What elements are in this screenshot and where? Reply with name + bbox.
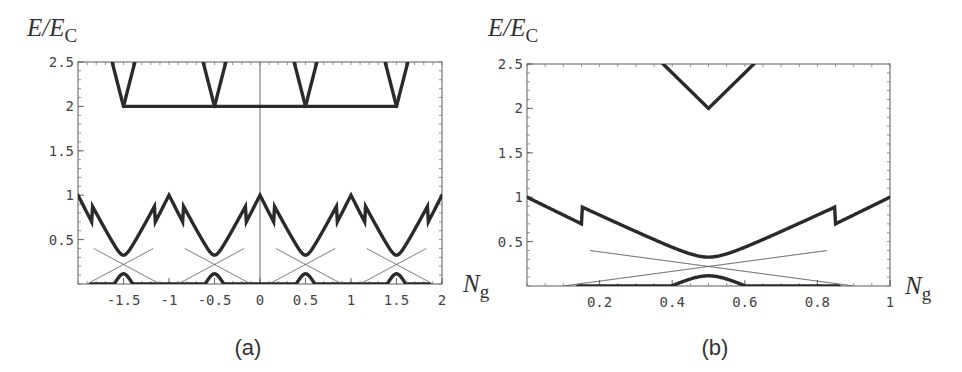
energy-level-curve <box>527 0 709 108</box>
y-tick-label: 2.5 <box>498 56 523 72</box>
panel-b-xlabel: Ng <box>904 272 932 304</box>
energy-level-curve <box>78 0 397 106</box>
x-tick-label: 0 <box>256 292 264 308</box>
energy-level-curve <box>215 0 443 106</box>
panel-b-plot-frame <box>527 64 890 286</box>
x-tick-label: 0.5 <box>293 292 318 308</box>
y-tick-label: 0.5 <box>49 232 74 248</box>
x-tick-label: 1 <box>347 292 355 308</box>
y-tick-label: 1.5 <box>498 145 523 161</box>
panel-a: E/EC -1.5-1-0.500.511.520.511.522.5 Ng (… <box>26 0 490 360</box>
x-tick-label: 2 <box>438 292 446 308</box>
panel-a-ylabel: E/EC <box>26 14 77 46</box>
first-excited-curve <box>527 197 890 257</box>
x-tick-label: 1.5 <box>384 292 409 308</box>
x-tick-label: -1 <box>161 292 178 308</box>
y-tick-label: 1 <box>66 187 74 203</box>
y-tick-label: 2 <box>515 100 523 116</box>
x-tick-label: 1 <box>886 294 894 310</box>
panel-b-curves <box>527 0 890 286</box>
x-tick-label: 0.4 <box>660 294 685 310</box>
panel-a-xlabel: Ng <box>462 270 490 302</box>
figure-svg: E/EC -1.5-1-0.500.511.520.511.522.5 Ng (… <box>0 0 962 372</box>
panel-b: E/EC 0.20.40.60.810.511.522.5 Ng (b) <box>487 0 932 360</box>
x-tick-label: 0.8 <box>805 294 830 310</box>
panel-b-label: (b) <box>702 335 729 360</box>
panel-a-label: (a) <box>235 335 262 360</box>
energy-level-curve <box>78 0 306 106</box>
panel-a-curves <box>78 0 442 284</box>
x-tick-label: -1.5 <box>107 292 141 308</box>
energy-level-curve <box>78 0 215 106</box>
y-tick-label: 1.5 <box>49 143 74 159</box>
y-tick-label: 2 <box>66 98 74 114</box>
x-tick-label: 0.2 <box>587 294 612 310</box>
y-tick-label: 0.5 <box>498 234 523 250</box>
x-tick-label: -0.5 <box>198 292 232 308</box>
figure: E/EC -1.5-1-0.500.511.520.511.522.5 Ng (… <box>0 0 962 372</box>
y-tick-label: 1 <box>515 189 523 205</box>
panel-b-ylabel: E/EC <box>487 14 538 46</box>
y-tick-label: 2.5 <box>49 54 74 70</box>
x-tick-label: 0.6 <box>732 294 757 310</box>
energy-level-curve <box>709 0 891 108</box>
energy-level-curve <box>306 0 443 106</box>
energy-level-curve <box>124 0 443 106</box>
